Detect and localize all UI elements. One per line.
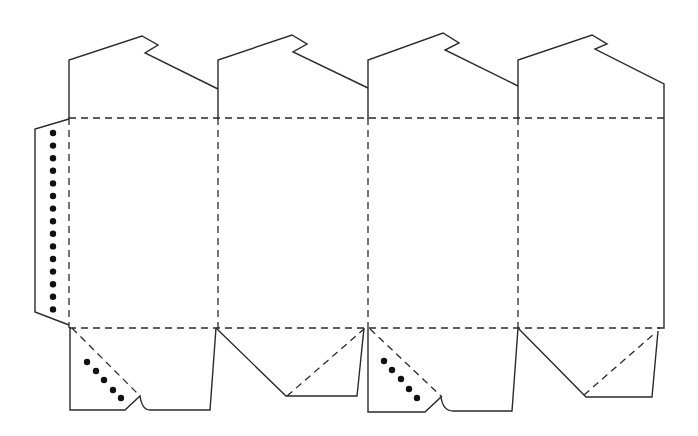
glue-dot bbox=[84, 359, 90, 365]
bottom-flaps bbox=[70, 327, 658, 412]
glue-dot bbox=[381, 358, 387, 364]
bottom-flap-1 bbox=[70, 327, 216, 410]
bottom-flap-3-fold-diagonal bbox=[370, 329, 442, 397]
top-flap-4 bbox=[518, 35, 664, 328]
glue-dot bbox=[50, 268, 56, 274]
glue-dot bbox=[50, 306, 56, 312]
box-dieline-diagram bbox=[0, 0, 698, 436]
glue-dot bbox=[93, 368, 99, 374]
glue-dot bbox=[50, 294, 56, 300]
glue-dot bbox=[398, 376, 404, 382]
glue-dot bbox=[50, 155, 56, 161]
glue-dot bbox=[110, 387, 116, 393]
glue-dot bbox=[50, 205, 56, 211]
bottom-flap-4-fold-diagonal bbox=[584, 333, 655, 395]
side-glue-tab bbox=[35, 119, 69, 325]
bottom-flap-1-fold-diagonal bbox=[72, 328, 140, 396]
glue-dot bbox=[101, 377, 107, 383]
top-flaps bbox=[69, 33, 664, 328]
glue-dot bbox=[50, 256, 56, 262]
bottom-flap-2 bbox=[216, 328, 364, 396]
bottom-flap-2-fold-diagonal bbox=[287, 329, 364, 396]
glue-dot bbox=[50, 243, 56, 249]
glue-dot bbox=[50, 130, 56, 136]
glue-dot bbox=[50, 180, 56, 186]
fold-lines bbox=[69, 118, 664, 328]
glue-dot bbox=[118, 395, 124, 401]
glue-dot bbox=[50, 281, 56, 287]
top-flap-3 bbox=[368, 33, 518, 119]
glue-dot bbox=[414, 395, 420, 401]
glue-dot bbox=[50, 218, 56, 224]
glue-dot bbox=[50, 168, 56, 174]
glue-dot bbox=[389, 367, 395, 373]
glue-dot bbox=[50, 142, 56, 148]
glue-dot bbox=[50, 193, 56, 199]
bottom-flap-4 bbox=[518, 328, 658, 397]
top-flap-1 bbox=[69, 36, 218, 119]
top-flap-2 bbox=[218, 35, 368, 119]
glue-dot bbox=[50, 231, 56, 237]
glue-dot bbox=[406, 386, 412, 392]
